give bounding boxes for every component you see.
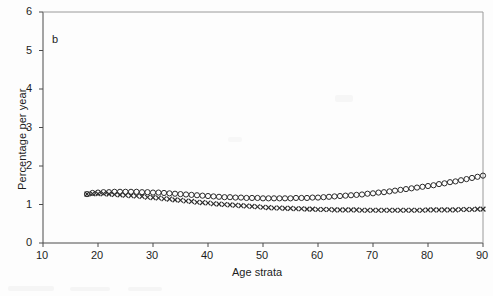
data-point-circle [249,195,254,200]
data-point-circle [398,187,403,192]
data-point-circle [458,178,463,183]
data-point-circle [205,193,210,198]
data-point-circle [453,179,458,184]
y-tick-label: 5 [26,44,32,56]
cross-marker-series [85,191,486,212]
data-point-circle [211,194,216,199]
y-tick-label: 4 [26,82,32,94]
data-point-circle [216,194,221,199]
data-point-circle [266,196,271,201]
y-tick-label: 1 [26,198,32,210]
data-point-circle [431,183,436,188]
data-point-circle [156,190,161,195]
data-point-circle [260,196,265,201]
data-point-circle [420,184,425,189]
data-point-circle [112,189,117,194]
x-tick-label: 20 [91,249,103,261]
y-tick-label: 2 [26,159,32,171]
data-point-circle [469,175,474,180]
data-point-circle [425,183,430,188]
data-point-circle [310,195,315,200]
open-circle-series [84,173,485,201]
data-point-circle [233,195,238,200]
data-point-circle [161,190,166,195]
data-point-circle [189,192,194,197]
x-tick-label: 80 [421,249,433,261]
data-point-circle [282,196,287,201]
data-point-circle [293,195,298,200]
data-point-circle [387,189,392,194]
data-point-circle [244,195,249,200]
figure-panel-b: Percentage per year Age strata b 0123456… [0,0,493,296]
data-point-circle [442,181,447,186]
data-point-circle [145,190,150,195]
x-tick-label: 90 [476,249,488,261]
data-point-circle [200,193,205,198]
data-point-circle [150,190,155,195]
data-point-circle [414,185,419,190]
y-axis-title: Percentage per year [16,88,28,190]
data-point-circle [277,196,282,201]
x-tick-label: 70 [366,249,378,261]
data-point-circle [321,195,326,200]
data-point-circle [475,174,480,179]
data-point-circle [403,187,408,192]
x-tick-label: 10 [36,249,48,261]
data-point-circle [436,181,441,186]
data-point-circle [464,176,469,181]
data-point-circle [381,190,386,195]
data-point-circle [227,195,232,200]
data-point-circle [238,195,243,200]
data-point-circle [447,180,452,185]
data-point-circle [370,191,375,196]
data-point-circle [337,193,342,198]
x-tick-label: 40 [201,249,213,261]
y-tick-label: 3 [26,121,32,133]
data-series-group [84,173,485,213]
x-tick-label: 30 [146,249,158,261]
panel-label: b [52,33,58,45]
data-point-circle [172,191,177,196]
axes-group [39,12,483,247]
data-point-circle [354,192,359,197]
data-point-circle [255,195,260,200]
data-point-circle [409,186,414,191]
data-point-circle [326,194,331,199]
data-point-circle [304,195,309,200]
data-point-circle [178,192,183,197]
data-point-circle [288,196,293,201]
y-tick-label: 0 [26,236,32,248]
data-point-circle [332,194,337,199]
data-point-circle [392,188,397,193]
data-point-circle [194,193,199,198]
data-point-circle [271,196,276,201]
data-point-circle [365,191,370,196]
x-tick-label: 60 [311,249,323,261]
data-point-circle [343,193,348,198]
data-point-circle [359,192,364,197]
y-tick-label: 6 [26,5,32,17]
scatter-plot-svg [0,0,493,296]
data-point-circle [315,195,320,200]
x-axis-title: Age strata [232,266,282,278]
data-point-circle [348,193,353,198]
x-tick-label: 50 [256,249,268,261]
data-point-circle [167,191,172,196]
data-point-circle [299,195,304,200]
data-point-circle [183,192,188,197]
data-point-circle [222,195,227,200]
data-point-circle [376,190,381,195]
